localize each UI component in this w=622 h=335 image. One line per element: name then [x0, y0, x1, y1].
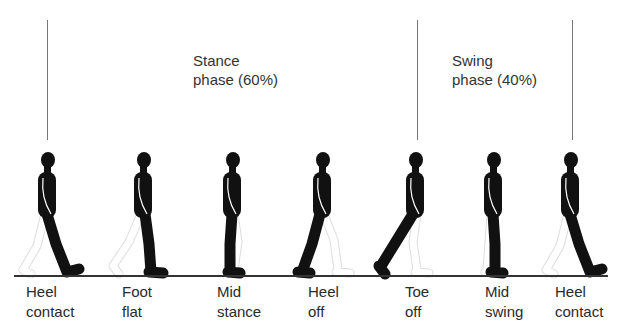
torso [406, 172, 424, 218]
head [316, 152, 330, 168]
event-label-line1: Heel [555, 282, 603, 302]
event-label-line2: flat [122, 302, 152, 322]
figure-mid-stance [223, 152, 242, 273]
event-label-mid-swing: Midswing [485, 282, 523, 322]
figure-heel-contact [546, 152, 602, 274]
leading-leg [570, 214, 602, 272]
event-label-toe-off: Toeoff [405, 282, 429, 322]
leading-leg [491, 214, 503, 273]
event-label-foot-flat: Footflat [122, 282, 152, 322]
leading-leg [47, 214, 79, 272]
event-label-line2: stance [217, 302, 261, 322]
torso [561, 172, 579, 218]
figure-toe-off [379, 152, 429, 274]
torso [134, 172, 152, 218]
leading-leg [298, 214, 320, 273]
event-label-line1: Heel [26, 282, 74, 302]
head [137, 152, 151, 168]
torso [313, 172, 331, 218]
figure-mid-swing [484, 152, 503, 273]
torso [223, 172, 241, 218]
gait-cycle-diagram: Stance phase (60%) Swing phase (40%) Hee… [0, 0, 622, 335]
ground-line [14, 275, 608, 277]
trailing-leg-fill [324, 214, 350, 273]
event-label-line1: Mid [485, 282, 523, 302]
figure-foot-flat [113, 152, 163, 274]
figure-heel-off [298, 152, 350, 273]
figure-heel-contact [23, 152, 79, 274]
event-label-line2: off [405, 302, 429, 322]
head [41, 152, 55, 168]
leading-leg [379, 214, 413, 274]
event-label-line2: off [308, 302, 339, 322]
event-label-heel-contact: Heelcontact [26, 282, 74, 322]
event-label-line1: Toe [405, 282, 429, 302]
head [564, 152, 578, 168]
event-label-line2: contact [26, 302, 74, 322]
event-label-heel-contact: Heelcontact [555, 282, 603, 322]
event-label-line1: Mid [217, 282, 261, 302]
event-label-mid-stance: Midstance [217, 282, 261, 322]
head [409, 152, 423, 168]
event-label-line2: swing [485, 302, 523, 322]
event-label-heel-off: Heeloff [308, 282, 339, 322]
trailing-leg-fill [413, 214, 429, 273]
event-label-line1: Foot [122, 282, 152, 302]
trailing-leg-fill [113, 214, 141, 274]
event-label-line1: Heel [308, 282, 339, 302]
torso [484, 172, 502, 218]
head [226, 152, 240, 168]
leading-leg [145, 214, 163, 273]
torso [38, 172, 56, 218]
event-label-line2: contact [555, 302, 603, 322]
head [487, 152, 501, 168]
